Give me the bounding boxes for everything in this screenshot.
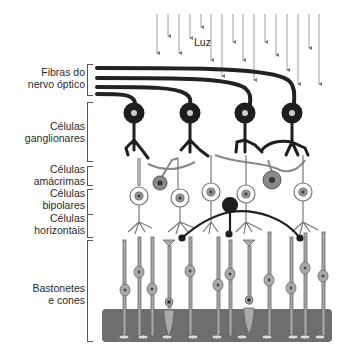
bipolar-cell [292, 155, 318, 234]
ganglion-cell [181, 104, 208, 156]
amacrine-cells [148, 155, 305, 190]
light-arrows [157, 14, 319, 84]
bipolar-cell [236, 155, 262, 234]
bipolar-cell [128, 158, 152, 234]
ganglion-cells [125, 104, 308, 158]
horizontal-cell [180, 198, 303, 241]
ganglion-cell [125, 104, 148, 158]
ganglion-cell [262, 104, 308, 155]
retina-illustration [0, 0, 347, 356]
optic-nerve-fibers [97, 68, 294, 108]
ganglion-cell [236, 104, 262, 152]
